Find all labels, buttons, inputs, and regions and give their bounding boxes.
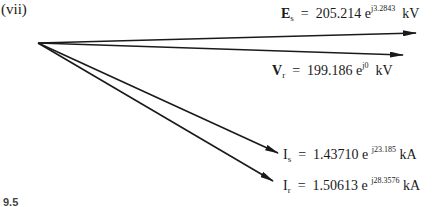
- phasor-label-is: Is = 1.43710 e j23.185 kA: [283, 145, 417, 164]
- exponent: j0: [362, 61, 368, 70]
- unit: kV: [375, 63, 392, 78]
- subscript: r: [288, 185, 291, 195]
- equals-sign: =: [292, 63, 300, 78]
- phasor-arrow-vr: [38, 43, 403, 55]
- exponent: j3.2843: [371, 4, 395, 13]
- magnitude: 205.214: [316, 6, 362, 21]
- phasor-label-vr: Vr = 199.186 ej0 kV: [272, 61, 393, 80]
- subscript: r: [282, 70, 285, 80]
- base: e: [362, 147, 368, 162]
- unit: kA: [400, 147, 417, 162]
- subscript: s: [288, 154, 292, 164]
- phasor-label-ir: Ir = 1.50613 e j28.3576 kA: [283, 176, 420, 195]
- exponent: j23.185: [372, 145, 396, 154]
- unit: kA: [403, 178, 420, 193]
- symbol: E: [281, 6, 290, 21]
- equals-sign: =: [298, 178, 306, 193]
- figure-label: 9.5: [3, 196, 18, 207]
- magnitude: 199.186: [307, 63, 353, 78]
- phasor-arrow-is: [38, 43, 278, 153]
- subscript: s: [290, 13, 294, 23]
- unit: kV: [402, 6, 419, 21]
- phasor-label-es: Es = 205.214 ej3.2843 kV: [281, 4, 419, 23]
- exponent: j28.3576: [371, 176, 399, 185]
- symbol: V: [272, 63, 282, 78]
- equals-sign: =: [301, 6, 309, 21]
- equals-sign: =: [298, 147, 306, 162]
- phasor-arrow-es: [38, 33, 416, 43]
- phasor-arrow-ir: [38, 43, 273, 181]
- magnitude: 1.50613: [313, 178, 359, 193]
- base: e: [362, 178, 368, 193]
- magnitude: 1.43710: [313, 147, 359, 162]
